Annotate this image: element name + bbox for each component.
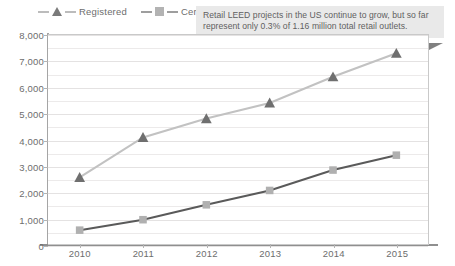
x-axis-tick-label: 2012 xyxy=(196,248,218,259)
x-axis-tick-label: 2010 xyxy=(69,248,91,259)
y-axis-tick-label: 6,000 xyxy=(19,82,44,93)
callout-text: Retail LEED projects in the US continue … xyxy=(203,10,438,33)
x-axis-tick xyxy=(207,244,208,248)
data-point-certified-2011 xyxy=(139,216,147,224)
legend-line-icon xyxy=(141,11,152,13)
y-axis-tick xyxy=(44,246,48,247)
data-point-certified-2013 xyxy=(266,187,274,195)
y-axis-tick-label: 7,000 xyxy=(19,56,44,67)
x-axis-tick xyxy=(397,244,398,248)
series-line-registered xyxy=(80,53,397,177)
y-axis-tick-label: 1,000 xyxy=(19,214,44,225)
data-point-certified-2010 xyxy=(76,226,84,234)
plot-area: 01,0002,0003,0004,0005,0006,0007,0008,00… xyxy=(48,34,429,245)
gridline xyxy=(48,246,428,247)
data-point-certified-2012 xyxy=(203,201,211,209)
y-axis-tick-label: 4,000 xyxy=(19,135,44,146)
x-axis-tick-label: 2013 xyxy=(259,248,281,259)
y-axis-tick-label: 8,000 xyxy=(19,30,44,41)
y-axis-tick-label: 3,000 xyxy=(19,161,44,172)
x-axis-tick-label: 2015 xyxy=(386,248,408,259)
x-axis-tick xyxy=(270,244,271,248)
series-plot xyxy=(48,35,428,244)
legend-item-registered: Registered xyxy=(38,6,127,17)
data-point-registered-2015 xyxy=(391,48,402,58)
x-axis-tick-label: 2014 xyxy=(323,248,345,259)
x-axis-tick xyxy=(143,244,144,248)
legend-line-icon xyxy=(167,11,178,13)
legend-line-icon xyxy=(65,11,76,13)
y-axis-tick-label: 5,000 xyxy=(19,109,44,120)
x-axis-tick xyxy=(334,244,335,248)
x-axis-tick xyxy=(80,244,81,248)
data-point-certified-2015 xyxy=(393,151,401,159)
legend-label-registered: Registered xyxy=(79,6,127,17)
x-axis-tick-label: 2011 xyxy=(133,248,154,259)
data-point-certified-2014 xyxy=(329,166,337,174)
triangle-marker-icon xyxy=(52,7,62,16)
chart-container: Registered Certified Retail LEED project… xyxy=(0,0,455,266)
data-point-registered-2010 xyxy=(74,172,85,182)
square-marker-icon xyxy=(155,7,164,16)
y-axis-tick-label: 2,000 xyxy=(19,188,44,199)
chart-legend: Registered Certified xyxy=(38,6,218,17)
data-point-registered-2013 xyxy=(264,98,275,108)
legend-line-icon xyxy=(38,11,49,13)
series-line-certified xyxy=(80,155,397,230)
